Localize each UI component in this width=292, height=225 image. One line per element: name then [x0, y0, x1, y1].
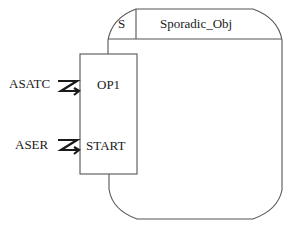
object-name[interactable]: Sporadic_Obj	[160, 16, 232, 31]
hood-diagram: S Sporadic_Obj OP1 START ASATC ASER	[0, 0, 292, 225]
object-kind-label: S	[118, 16, 125, 31]
caller-aser: ASER	[15, 137, 49, 152]
operation-op1[interactable]: OP1	[97, 77, 120, 92]
provided-operations-box[interactable]	[80, 54, 137, 174]
operation-start[interactable]: START	[86, 138, 125, 153]
asynchronous-message-icon	[58, 140, 79, 154]
caller-asatc: ASATC	[9, 76, 50, 91]
sporadic-object-outline[interactable]	[108, 9, 282, 219]
asynchronous-message-icon	[58, 81, 79, 95]
